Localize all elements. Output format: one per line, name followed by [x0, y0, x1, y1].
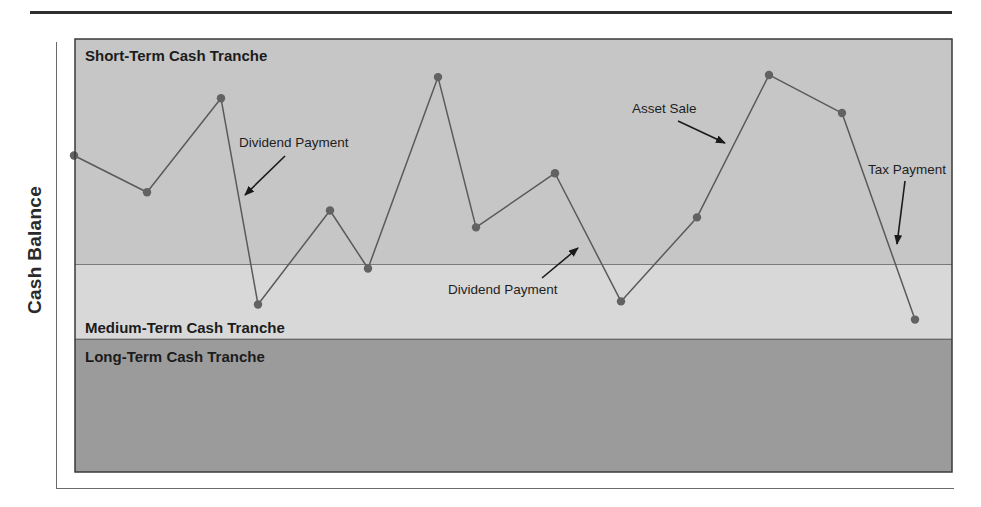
data-point-marker: [765, 71, 773, 79]
data-point-marker: [472, 223, 480, 231]
data-point-marker: [617, 297, 625, 305]
data-point-marker: [911, 315, 919, 323]
annotation-label: Dividend Payment: [448, 282, 558, 297]
data-point-marker: [70, 151, 78, 159]
data-point-marker: [693, 213, 701, 221]
data-point-marker: [434, 73, 442, 81]
band-short-term-cash-tranche: [75, 39, 952, 265]
band-label: Long-Term Cash Tranche: [85, 348, 265, 365]
annotation-label: Asset Sale: [632, 101, 697, 116]
data-point-marker: [143, 188, 151, 196]
band-label: Short-Term Cash Tranche: [85, 47, 267, 64]
chart-figure: Cash Balance Short-Term Cash TrancheMedi…: [0, 0, 981, 507]
band-label: Medium-Term Cash Tranche: [85, 319, 285, 336]
data-point-marker: [551, 169, 559, 177]
annotation-label: Dividend Payment: [239, 135, 349, 150]
data-point-marker: [254, 300, 262, 308]
data-point-marker: [364, 264, 372, 272]
annotation-label: Tax Payment: [868, 162, 946, 177]
data-point-marker: [326, 206, 334, 214]
data-point-marker: [217, 94, 225, 102]
plot-area: Short-Term Cash TrancheMedium-Term Cash …: [0, 0, 981, 507]
data-point-marker: [838, 109, 846, 117]
tranche-bands: [75, 39, 952, 472]
